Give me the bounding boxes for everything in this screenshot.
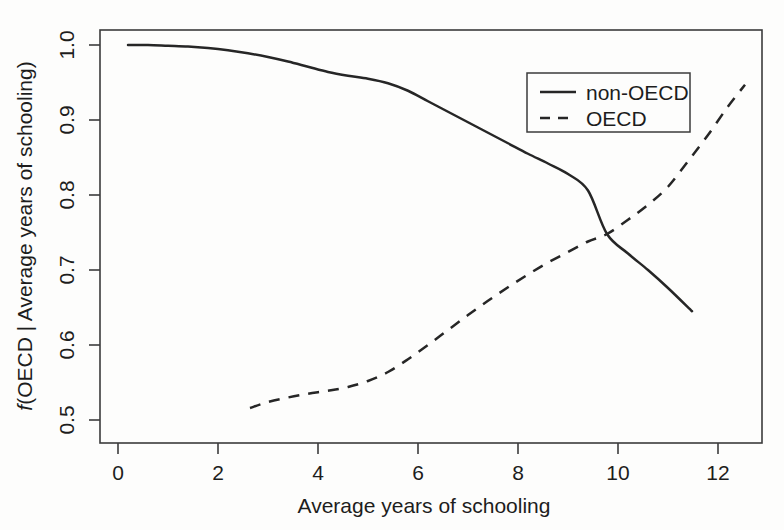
legend-label-non-oecd: non-OECD (586, 81, 689, 104)
y-axis-title: f(OECD | Average years of schooling) (13, 61, 36, 410)
x-axis-title: Average years of schooling (298, 494, 551, 517)
y-tick-labels: 0.5 0.6 0.7 0.8 0.9 1.0 (55, 30, 78, 434)
y-tick-label: 0.6 (55, 330, 78, 359)
x-tick-label: 2 (212, 461, 224, 484)
y-tick-label: 1.0 (55, 30, 78, 59)
x-axis-ticks (118, 443, 718, 454)
legend-label-oecd: OECD (586, 107, 647, 130)
x-tick-labels: 0 2 4 6 8 10 12 (112, 461, 730, 484)
conditional-density-plot: 0 2 4 6 8 10 12 0.5 0.6 0.7 0.8 0.9 1.0 … (0, 0, 784, 530)
x-tick-label: 6 (412, 461, 424, 484)
y-tick-label: 0.9 (55, 105, 78, 134)
x-tick-label: 4 (312, 461, 324, 484)
x-tick-label: 0 (112, 461, 124, 484)
y-tick-label: 0.5 (55, 405, 78, 434)
y-tick-label: 0.8 (55, 180, 78, 209)
x-tick-label: 10 (606, 461, 629, 484)
chart-figure: 0 2 4 6 8 10 12 0.5 0.6 0.7 0.8 0.9 1.0 … (0, 0, 784, 530)
y-tick-label: 0.7 (55, 255, 78, 284)
chart-legend[interactable]: non-OECD OECD (527, 73, 690, 132)
x-tick-label: 8 (512, 461, 524, 484)
y-axis-ticks (89, 45, 100, 420)
x-tick-label: 12 (706, 461, 729, 484)
y-axis-title-rest: (OECD | Average years of schooling) (13, 61, 36, 405)
series-line-oecd (250, 85, 745, 408)
